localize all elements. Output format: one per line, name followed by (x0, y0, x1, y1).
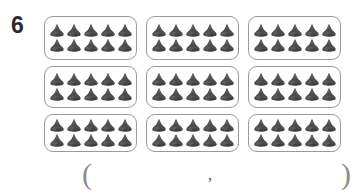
chocolate-kiss-icon (100, 87, 116, 102)
chocolate-kiss-icon (66, 72, 82, 87)
chocolate-kiss-icon (151, 118, 167, 133)
group-item-row (150, 72, 235, 87)
chocolate-kiss-icon (287, 23, 303, 38)
answer-comma: , (208, 166, 212, 183)
chocolate-kiss-icon (253, 133, 269, 148)
chocolate-kiss-icon (253, 38, 269, 53)
chocolate-kiss-icon (100, 38, 116, 53)
group-box (146, 114, 239, 152)
chocolate-kiss-icon (117, 72, 133, 87)
group-item-row (252, 133, 337, 148)
chocolate-kiss-icon (100, 133, 116, 148)
group-box (44, 16, 137, 60)
chocolate-kiss-icon (321, 38, 337, 53)
chocolate-kiss-icon (321, 118, 337, 133)
chocolate-kiss-icon (202, 87, 218, 102)
chocolate-kiss-icon (219, 72, 235, 87)
group-item-row (48, 133, 133, 148)
chocolate-kiss-icon (66, 23, 82, 38)
group-item-row (150, 23, 235, 38)
group-item-row (48, 23, 133, 38)
group-item-row (150, 38, 235, 53)
chocolate-kiss-icon (287, 72, 303, 87)
chocolate-kiss-icon (49, 87, 65, 102)
group-item-row (252, 118, 337, 133)
chocolate-kiss-icon (202, 72, 218, 87)
chocolate-kiss-icon (66, 118, 82, 133)
chocolate-kiss-icon (100, 72, 116, 87)
chocolate-kiss-icon (270, 87, 286, 102)
chocolate-kiss-icon (287, 133, 303, 148)
chocolate-kiss-icon (117, 38, 133, 53)
chocolate-kiss-icon (321, 72, 337, 87)
group-box (248, 16, 341, 60)
chocolate-kiss-icon (151, 72, 167, 87)
groups-grid (44, 16, 341, 153)
chocolate-kiss-icon (304, 133, 320, 148)
chocolate-kiss-icon (168, 72, 184, 87)
chocolate-kiss-icon (304, 118, 320, 133)
group-item-row (252, 38, 337, 53)
chocolate-kiss-icon (168, 38, 184, 53)
chocolate-kiss-icon (66, 133, 82, 148)
chocolate-kiss-icon (202, 118, 218, 133)
chocolate-kiss-icon (83, 133, 99, 148)
group-item-row (252, 23, 337, 38)
chocolate-kiss-icon (219, 133, 235, 148)
chocolate-kiss-icon (168, 133, 184, 148)
chocolate-kiss-icon (83, 87, 99, 102)
group-item-row (252, 72, 337, 87)
chocolate-kiss-icon (202, 38, 218, 53)
group-item-row (150, 133, 235, 148)
answer-open-paren: ( (82, 159, 92, 189)
chocolate-kiss-icon (270, 23, 286, 38)
chocolate-kiss-icon (151, 38, 167, 53)
group-item-row (48, 38, 133, 53)
chocolate-kiss-icon (202, 133, 218, 148)
chocolate-kiss-icon (168, 87, 184, 102)
chocolate-kiss-icon (253, 87, 269, 102)
group-item-row (150, 118, 235, 133)
group-box (44, 114, 137, 152)
chocolate-kiss-icon (117, 23, 133, 38)
group-box (146, 66, 239, 108)
chocolate-kiss-icon (83, 72, 99, 87)
question-number: 6 (11, 12, 24, 38)
chocolate-kiss-icon (168, 118, 184, 133)
chocolate-kiss-icon (100, 23, 116, 38)
group-item-row (48, 72, 133, 87)
chocolate-kiss-icon (304, 87, 320, 102)
group-item-row (48, 87, 133, 102)
answer-close-paren: ) (341, 159, 351, 189)
chocolate-kiss-icon (304, 38, 320, 53)
chocolate-kiss-icon (219, 87, 235, 102)
chocolate-kiss-icon (287, 38, 303, 53)
chocolate-kiss-icon (185, 133, 201, 148)
group-box (248, 114, 341, 152)
chocolate-kiss-icon (253, 72, 269, 87)
chocolate-kiss-icon (168, 23, 184, 38)
chocolate-kiss-icon (304, 72, 320, 87)
chocolate-kiss-icon (83, 23, 99, 38)
chocolate-kiss-icon (321, 23, 337, 38)
chocolate-kiss-icon (117, 118, 133, 133)
chocolate-kiss-icon (49, 118, 65, 133)
chocolate-kiss-icon (117, 87, 133, 102)
chocolate-kiss-icon (185, 38, 201, 53)
chocolate-kiss-icon (321, 87, 337, 102)
answer-line: ( , ) (0, 158, 363, 196)
chocolate-kiss-icon (219, 38, 235, 53)
chocolate-kiss-icon (253, 23, 269, 38)
chocolate-kiss-icon (287, 87, 303, 102)
chocolate-kiss-icon (219, 23, 235, 38)
group-box (146, 16, 239, 60)
chocolate-kiss-icon (304, 23, 320, 38)
chocolate-kiss-icon (287, 118, 303, 133)
chocolate-kiss-icon (49, 23, 65, 38)
group-item-row (252, 87, 337, 102)
chocolate-kiss-icon (151, 23, 167, 38)
chocolate-kiss-icon (219, 118, 235, 133)
worksheet-page: 6 ( , ) (0, 0, 363, 196)
chocolate-kiss-icon (151, 133, 167, 148)
group-item-row (48, 118, 133, 133)
